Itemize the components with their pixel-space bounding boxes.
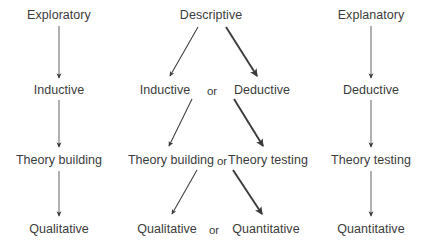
node-descriptive-purpose: Descriptive bbox=[180, 8, 242, 23]
node-exploratory-theory: Theory building bbox=[16, 153, 102, 168]
or-label-theory: or bbox=[217, 154, 227, 169]
arrow-descriptive-theory-building-to-qualitative bbox=[172, 170, 197, 214]
arrow-descriptive-purpose-to-inductive bbox=[170, 27, 198, 76]
node-explanatory-purpose: Explanatory bbox=[338, 8, 405, 23]
node-descriptive-data-left: Qualitative bbox=[137, 222, 197, 237]
or-label-data: or bbox=[209, 223, 219, 238]
node-descriptive-reasoning-right: Deductive bbox=[234, 83, 290, 98]
arrow-descriptive-theory-testing-to-quantitative bbox=[233, 170, 262, 214]
node-explanatory-reasoning: Deductive bbox=[343, 83, 399, 98]
arrow-descriptive-purpose-to-deductive bbox=[226, 27, 257, 76]
node-descriptive-reasoning-left: Inductive bbox=[140, 83, 190, 98]
node-exploratory-reasoning: Inductive bbox=[34, 83, 84, 98]
node-exploratory-purpose: Exploratory bbox=[27, 8, 91, 23]
node-explanatory-theory: Theory testing bbox=[331, 153, 411, 168]
node-explanatory-data: Quantitative bbox=[337, 222, 404, 237]
arrow-layer bbox=[0, 0, 425, 244]
arrow-descriptive-deductive-to-theory-testing bbox=[234, 99, 263, 146]
or-label-reasoning: or bbox=[207, 84, 217, 99]
node-descriptive-data-right: Quantitative bbox=[232, 222, 299, 237]
node-descriptive-theory-right: Theory testing bbox=[228, 153, 308, 168]
research-approach-diagram: Exploratory Inductive Theory building Qu… bbox=[0, 0, 425, 244]
node-exploratory-data: Qualitative bbox=[29, 222, 89, 237]
arrow-descriptive-inductive-to-theory-building bbox=[169, 99, 192, 146]
node-descriptive-theory-left: Theory building bbox=[128, 153, 214, 168]
